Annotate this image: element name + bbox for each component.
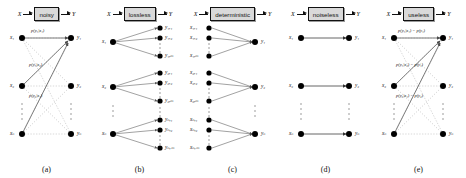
- edge-label-3-a: p(y₂|x₁): [29, 94, 42, 98]
- channel-box-a: noisy: [34, 7, 58, 21]
- node-label-y2-d: y₂: [355, 83, 359, 88]
- node-label-x22-c: x₂,₂: [190, 80, 197, 85]
- node-label-y2m-b: y₂,ₘ: [165, 98, 173, 103]
- node-label-x12-c: x₁,₂: [190, 35, 197, 40]
- arrow-out-icon-d: [346, 14, 355, 15]
- panel-a: X noisy Y: [0, 0, 93, 178]
- node-label-yn-a: yₙ: [77, 131, 81, 136]
- node-label-y1-a: y₁: [77, 35, 81, 40]
- input-label-e: X: [387, 11, 391, 17]
- input-label-c: X: [194, 11, 198, 17]
- graph-a: x₁ x₂ xₙ y₁ y₂ yₙ p(y₁|x₁) p(y₁|x₂) p(y₂…: [0, 24, 93, 152]
- input-label-d: X: [291, 11, 295, 17]
- node-label-xn-a: xₙ: [10, 131, 14, 136]
- block-diagram-a: X noisy Y: [0, 5, 93, 23]
- node-label-xnm-c: xₙ,ₘ: [190, 145, 199, 150]
- caption-b: (b): [93, 165, 186, 174]
- input-label-a: X: [18, 11, 22, 17]
- node-label-y11-b: y₁,₁: [165, 25, 172, 30]
- node-label-y1-d: y₁: [355, 35, 359, 40]
- node-label-x11-c: x₁,₁: [190, 25, 197, 30]
- input-label-b: X: [107, 11, 111, 17]
- panel-c: X deterministic Y: [186, 0, 279, 178]
- channel-models-figure: X noisy Y: [0, 0, 466, 178]
- arrow-in-icon-a: [23, 14, 32, 15]
- node-label-yn1-b: yₙ,₁: [165, 117, 172, 122]
- node-label-y1m-b: y₁,ₘ: [165, 53, 173, 58]
- edge-label-1-a: p(y₁|x₁): [31, 29, 44, 33]
- node-label-yn-c: yₙ: [261, 131, 265, 136]
- arrow-out-icon-c: [257, 14, 266, 15]
- node-label-x1-b: x₁: [102, 39, 106, 44]
- node-label-y2-a: y₂: [77, 83, 81, 88]
- caption-d: (d): [279, 165, 372, 174]
- node-label-y1-e: y₁: [449, 35, 453, 40]
- arrow-out-icon-e: [436, 14, 445, 15]
- node-label-x1-e: x₁: [382, 35, 386, 40]
- channel-box-d: noiseless: [308, 7, 344, 21]
- edge-label-2-a: p(y₁|x₂): [29, 63, 42, 67]
- graph-c: x₁,₁ x₁,₂ x₁,ₘ x₂,₁ x₂,₂ x₂,ₘ xₙ,₁ xₙ,₂ …: [186, 24, 279, 152]
- arrow-in-icon-e: [392, 14, 401, 15]
- panel-e: X useless Y: [372, 0, 465, 178]
- node-label-y2-e: y₂: [449, 83, 453, 88]
- node-label-xn-b: xₙ: [102, 131, 106, 136]
- node-label-y22-b: y₂,₂: [165, 80, 172, 85]
- node-label-y21-b: y₂,₁: [165, 70, 172, 75]
- output-label-a: Y: [72, 11, 75, 17]
- caption-e: (e): [372, 165, 465, 174]
- node-label-y2-c: y₂: [261, 84, 265, 89]
- node-label-xn-d: xₙ: [289, 131, 293, 136]
- block-diagram-e: X useless Y: [372, 5, 465, 23]
- node-label-x2-e: x₂: [382, 83, 386, 88]
- node-label-x2m-c: x₂,ₘ: [190, 98, 198, 103]
- node-label-ynm-b: yₙ,ₘ: [165, 145, 174, 150]
- caption-c: (c): [186, 165, 279, 174]
- graph-b: x₁ x₂ xₙ y₁,₁ y₁,₂ y₁,ₘ y₂,₁ y₂,₂ y₂,ₘ y…: [93, 24, 186, 152]
- graph-edges-b: [93, 24, 186, 152]
- edge-label-3-e: p(y₂|x₁) = p(y₂): [396, 94, 423, 98]
- arrow-out-icon-a: [61, 14, 70, 15]
- output-label-e: Y: [447, 11, 450, 17]
- output-label-d: Y: [357, 11, 360, 17]
- panel-d: X noiseless Y: [279, 0, 372, 178]
- node-label-yn2-b: yₙ,₂: [165, 127, 172, 132]
- arrow-in-icon-c: [199, 14, 208, 15]
- node-label-x21-c: x₂,₁: [190, 70, 197, 75]
- output-label-c: Y: [268, 11, 271, 17]
- channel-box-c: deterministic: [210, 7, 255, 21]
- caption-a: (a): [0, 165, 93, 174]
- block-diagram-c: X deterministic Y: [186, 5, 279, 23]
- node-label-yn-d: yₙ: [355, 131, 359, 136]
- output-label-b: Y: [169, 11, 172, 17]
- block-diagram-b: X lossless Y: [93, 5, 186, 23]
- node-label-x2-b: x₂: [102, 84, 106, 89]
- node-label-x2-a: x₂: [10, 83, 14, 88]
- channel-box-b: lossless: [124, 7, 156, 21]
- arrow-in-icon-d: [297, 14, 306, 15]
- node-label-x1-d: x₁: [289, 35, 293, 40]
- graph-e: x₁ x₂ xₙ y₁ y₂ yₙ p(y₁|x₁) = p(y₁) p(y₁|…: [372, 24, 465, 152]
- node-label-x1m-c: x₁,ₘ: [190, 53, 198, 58]
- node-label-yn-e: yₙ: [449, 131, 453, 136]
- block-diagram-d: X noiseless Y: [279, 5, 372, 23]
- node-label-y12-b: y₁,₂: [165, 35, 172, 40]
- graph-d: x₁ x₂ xₙ y₁ y₂ yₙ: [279, 24, 372, 152]
- node-label-x2-d: x₂: [289, 83, 293, 88]
- node-label-x1-a: x₁: [10, 35, 14, 40]
- node-label-xn-e: xₙ: [382, 131, 386, 136]
- edge-label-2-e: p(y₁|x₂) = p(y₁): [396, 63, 423, 67]
- panel-b: X lossless Y: [93, 0, 186, 178]
- edge-label-1-e: p(y₁|x₁) = p(y₁): [398, 29, 425, 33]
- node-label-y1-c: y₁: [261, 39, 265, 44]
- arrow-out-icon-b: [158, 14, 167, 15]
- node-label-xn1-c: xₙ,₁: [190, 117, 197, 122]
- node-label-xn2-c: xₙ,₂: [190, 127, 197, 132]
- channel-box-e: useless: [403, 7, 434, 21]
- arrow-in-icon-b: [113, 14, 122, 15]
